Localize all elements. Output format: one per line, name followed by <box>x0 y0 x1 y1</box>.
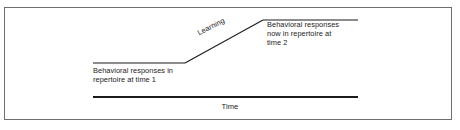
label-time-axis: Time <box>0 102 460 111</box>
rising-segment <box>185 20 263 63</box>
label-time-1: Behavioral responses in repertoire at ti… <box>93 66 203 84</box>
figure-container: Behavioral responses in repertoire at ti… <box>0 0 460 130</box>
label-time-2: Behavioral responses now in repertoire a… <box>267 20 367 47</box>
